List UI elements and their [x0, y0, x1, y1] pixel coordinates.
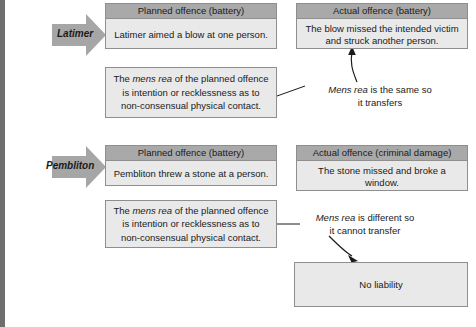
pembliton-note-emphasis: Mens rea — [316, 212, 356, 223]
diagram-canvas: Latimer Planned offence (battery) Latime… — [0, 0, 476, 327]
latimer-mens-rea-text: The mens rea of the planned offence is i… — [113, 72, 268, 113]
latimer-note-line2: it transfers — [358, 97, 402, 108]
party-label-latimer: Latimer — [57, 28, 93, 39]
left-edge-strip — [0, 0, 5, 327]
latimer-actual-offence-header: Actual offence (battery) — [297, 4, 467, 19]
pembliton-actual-offence-box: Actual offence (criminal damage) The sto… — [296, 145, 468, 191]
pembliton-planned-offence-box: Planned offence (battery) Pembliton thre… — [105, 145, 277, 186]
latimer-actual-offence-box: Actual offence (battery) The blow missed… — [296, 3, 468, 49]
latimer-planned-offence-body: Latimer aimed a blow at one person. — [106, 19, 276, 50]
pembliton-no-transfer-arrow — [329, 236, 352, 256]
latimer-transfer-note: Mens rea is the same so it transfers — [305, 84, 455, 109]
latimer-mens-rea-line3: non-consensual physical contact. — [121, 100, 261, 111]
pembliton-actual-offence-body: The stone missed and broke a window. — [297, 161, 467, 192]
pembliton-mens-rea-text: The mens rea of the planned offence is i… — [113, 204, 268, 245]
latimer-planned-offence-box: Planned offence (battery) Latimer aimed … — [105, 3, 277, 49]
latimer-actual-offence-body: The blow missed the intended victim and … — [297, 19, 467, 50]
pembliton-note-line1-post: is different so — [355, 212, 414, 223]
pembliton-mens-rea-line1-emphasis: mens rea — [132, 205, 172, 216]
pembliton-mens-rea-line1-post: of the planned offence — [172, 205, 269, 216]
latimer-mens-rea-line1-emphasis: mens rea — [132, 73, 172, 84]
latimer-mens-rea-box: The mens rea of the planned offence is i… — [105, 67, 277, 118]
pembliton-actual-offence-header: Actual offence (criminal damage) — [297, 146, 467, 161]
latimer-mens-rea-line2: is intention or recklessness as to — [122, 87, 259, 98]
latimer-transfer-arrow — [351, 52, 357, 82]
latimer-mens-rea-line1-pre: The — [113, 73, 132, 84]
pembliton-mens-rea-line1-pre: The — [113, 205, 132, 216]
pembliton-mens-rea-line3: non-consensual physical contact. — [121, 232, 261, 243]
latimer-note-emphasis: Mens rea — [328, 84, 368, 95]
pembliton-planned-offence-body: Pembliton threw a stone at a person. — [106, 161, 276, 187]
latimer-note-line1-post: is the same so — [368, 84, 432, 95]
latimer-planned-offence-header: Planned offence (battery) — [106, 4, 276, 19]
pembliton-note-line2: it cannot transfer — [330, 225, 401, 236]
party-label-pembliton: Pembliton — [46, 160, 94, 171]
latimer-mens-rea-line1-post: of the planned offence — [172, 73, 269, 84]
pembliton-no-transfer-note: Mens rea is different so it cannot trans… — [290, 212, 440, 237]
pembliton-outcome-label: No liability — [359, 278, 402, 291]
latimer-leader-line — [277, 86, 305, 96]
pembliton-outcome-box: No liability — [294, 262, 468, 307]
pembliton-mens-rea-line2: is intention or recklessness as to — [122, 218, 259, 229]
pembliton-planned-offence-header: Planned offence (battery) — [106, 146, 276, 161]
pembliton-mens-rea-box: The mens rea of the planned offence is i… — [105, 200, 277, 248]
